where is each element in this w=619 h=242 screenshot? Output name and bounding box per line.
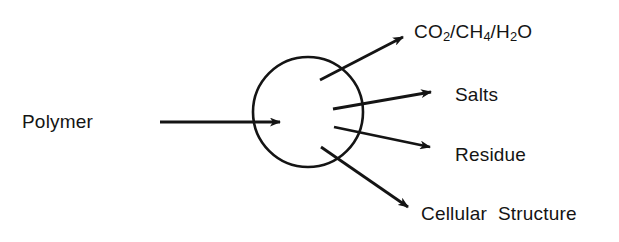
output-arrow-gases (320, 37, 403, 80)
diagram-canvas: Polymer CO2/CH4/H2O Salts Residue Cellul… (0, 0, 619, 242)
output-label-cellular-structure: Cellular Structure (421, 204, 577, 223)
output-arrow-salts (333, 92, 431, 109)
output-arrow-residue (334, 127, 430, 147)
process-circle (253, 57, 363, 167)
output-label-gases: CO2/CH4/H2O (414, 22, 532, 44)
output-arrow-cellular-structure (321, 147, 408, 207)
output-label-salts: Salts (455, 85, 498, 104)
node-label-polymer: Polymer (22, 112, 93, 131)
output-label-residue: Residue (455, 145, 526, 164)
